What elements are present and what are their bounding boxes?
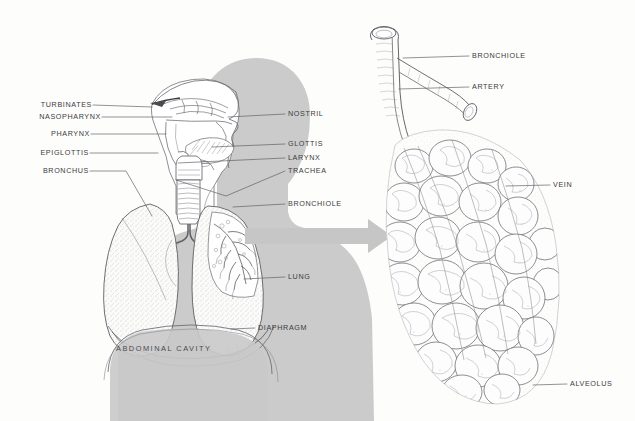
label-bronchus: BRONCHUS (0, 167, 89, 174)
label-bronchiole-detail: BRONCHIOLE (472, 52, 526, 59)
label-nostril: NOSTRIL (288, 110, 324, 117)
label-nasopharynx: NASOPHARYNX (0, 113, 101, 120)
label-glottis: GLOTTIS (288, 140, 323, 147)
label-alveolus: ALVEOLUS (570, 380, 612, 387)
anatomy-illustration (0, 0, 635, 421)
label-artery: ARTERY (472, 83, 505, 90)
label-diaphragm: DIAPHRAGM (258, 324, 307, 331)
label-vein: VEIN (553, 181, 572, 188)
label-abdominal-cavity: ABDOMINAL CAVITY (116, 344, 211, 353)
label-bronchiole-lung: BRONCHIOLE (288, 200, 342, 207)
label-turbinates: TURBINATES (0, 101, 92, 108)
alveolar-detail-illustration (370, 27, 563, 410)
figure-canvas: TURBINATES NASOPHARYNX PHARYNX EPIGLOTTI… (0, 0, 635, 421)
label-lung: LUNG (288, 273, 310, 280)
label-pharynx: PHARYNX (0, 130, 90, 137)
label-larynx: LARYNX (288, 154, 320, 161)
label-trachea: TRACHEA (288, 167, 327, 174)
bronchiole-tube (370, 27, 410, 145)
artery-branch (397, 58, 480, 123)
label-epiglottis: EPIGLOTTIS (0, 149, 89, 156)
